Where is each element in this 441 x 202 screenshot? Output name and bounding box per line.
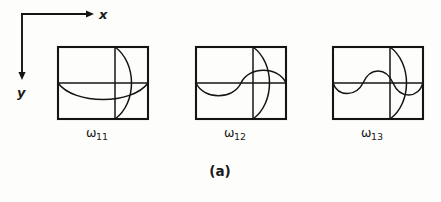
mode-panel-2: ω 12 (196, 47, 286, 142)
mode-label-2-symbol: ω (224, 125, 234, 140)
x-axis-label: x (98, 7, 108, 22)
x-axis-arrowhead (86, 10, 94, 17)
mode-panel-3: ω 13 (333, 47, 423, 142)
mode-label-3-symbol: ω (361, 125, 371, 140)
mode-label-1-subscript: 11 (96, 131, 108, 142)
mode-label-3-subscript: 13 (371, 131, 383, 142)
y-axis-label: y (17, 85, 26, 100)
mode-label-1-symbol: ω (86, 125, 96, 140)
y-axis-arrowhead (18, 72, 25, 80)
figure-caption: (a) (209, 163, 230, 179)
figure-container: x y ω 11 (0, 0, 441, 202)
mode-label-2-subscript: 12 (234, 131, 246, 142)
mode-shapes-figure: x y ω 11 (0, 0, 441, 202)
horizontal-mode-curve-1 (58, 83, 148, 100)
coordinate-axes: x y (17, 7, 108, 100)
mode-panel-1: ω 11 (58, 47, 148, 142)
